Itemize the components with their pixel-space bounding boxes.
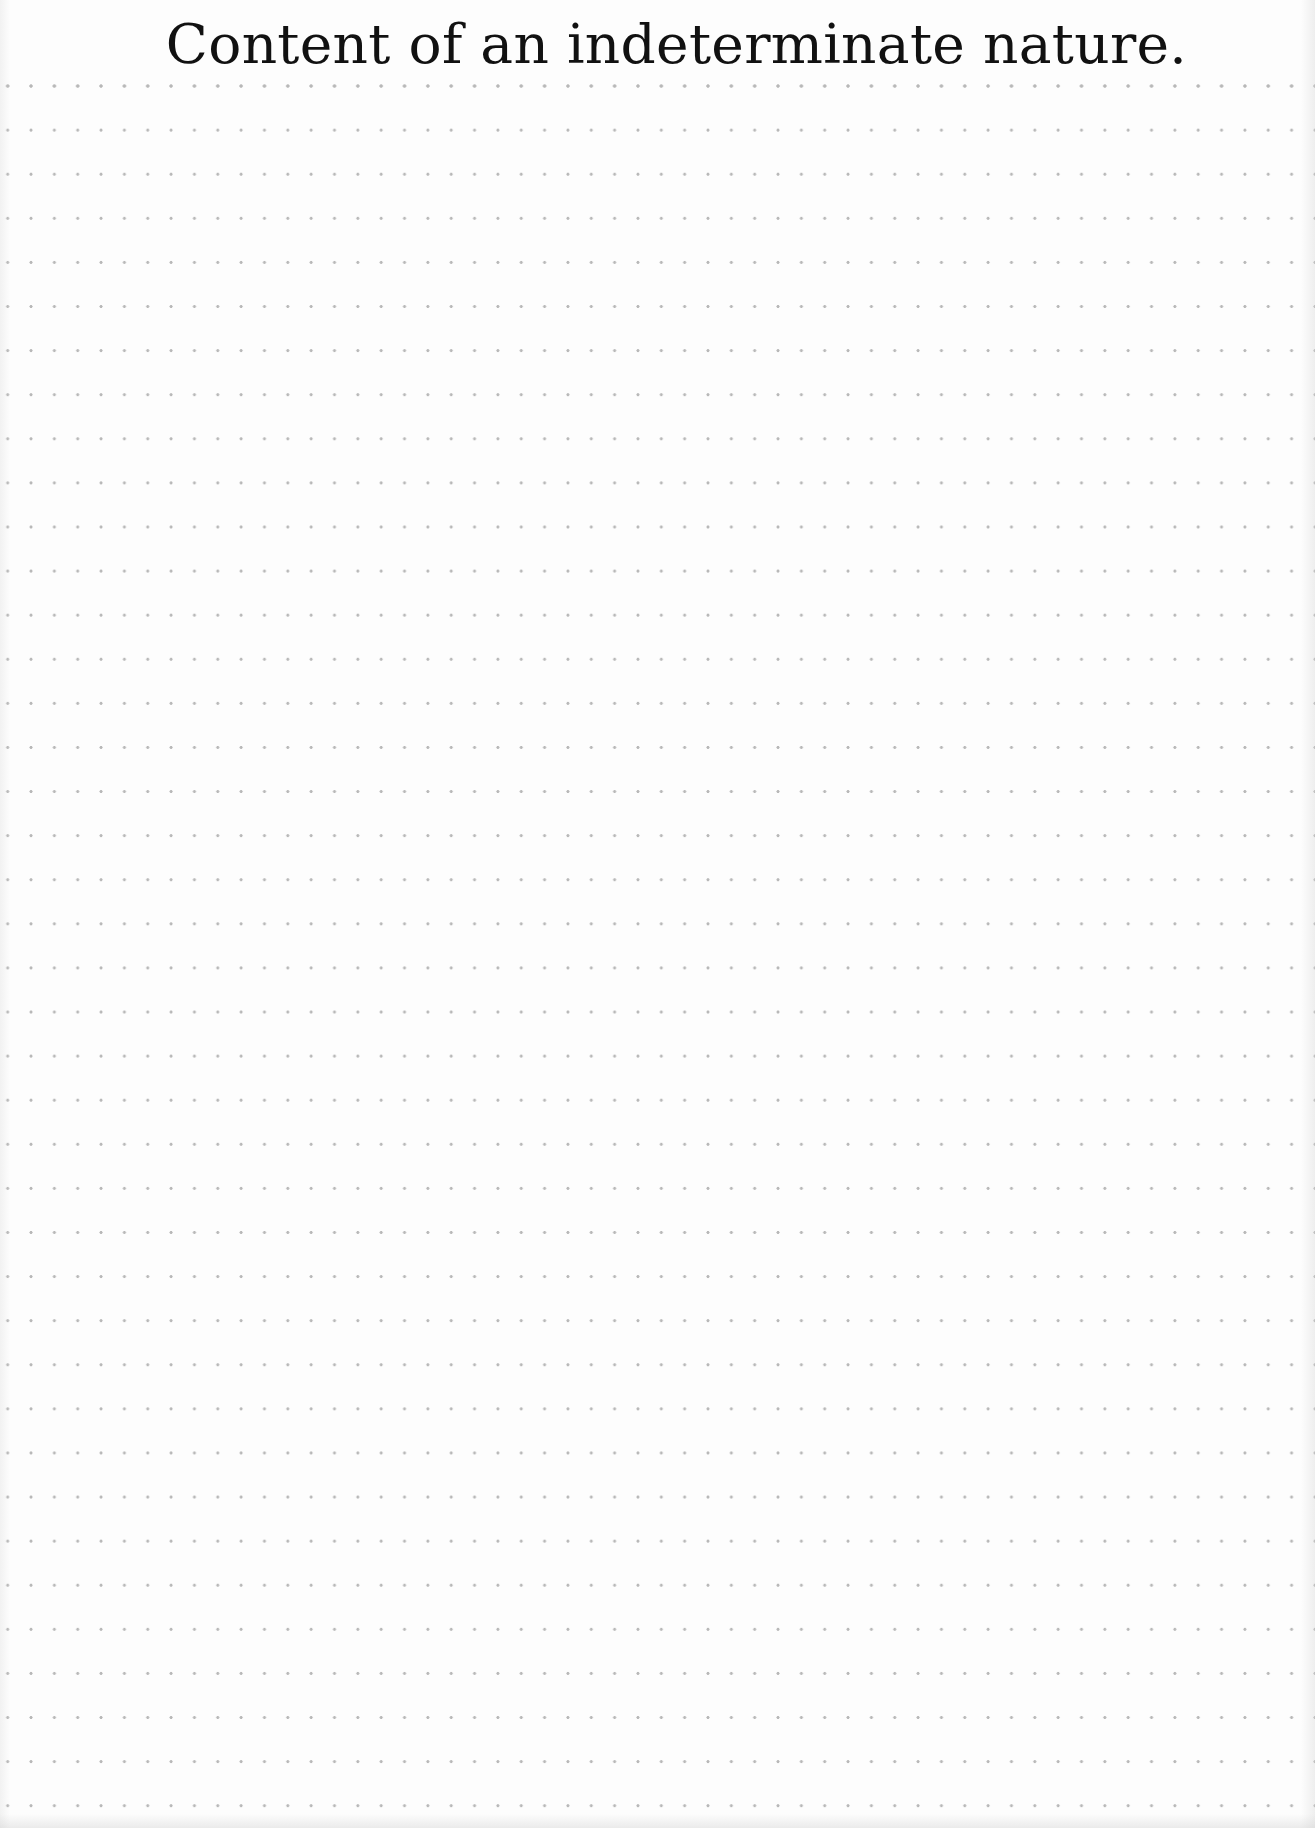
dot-grid-first-row: [0, 84, 1315, 88]
page-left-edge: [0, 0, 10, 1828]
page-title: Content of an indeterminate nature.: [0, 6, 1315, 82]
page-bottom-edge: [0, 1814, 1315, 1828]
dot-grid-page: Content of an indeterminate nature.: [0, 0, 1315, 1828]
page-right-edge: [1301, 0, 1315, 1828]
